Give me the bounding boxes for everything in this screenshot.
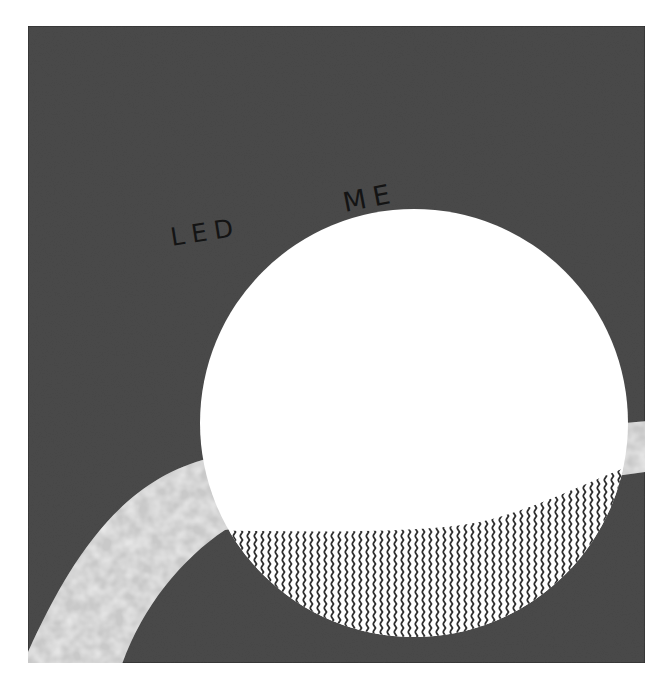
image-canvas: LED ME bbox=[0, 0, 662, 684]
